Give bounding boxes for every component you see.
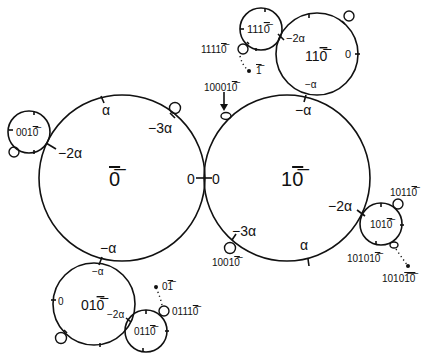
- loop-101010bar: [390, 242, 398, 248]
- tick-1110bar-4: [247, 42, 249, 44]
- angle-zero-010bar: 0: [58, 296, 64, 307]
- loop-100010bar: [221, 113, 231, 120]
- angle-m3alpha-0bar: −3α: [148, 120, 172, 136]
- loop-0010bar: [9, 147, 19, 157]
- loop-0110bar: [159, 306, 169, 316]
- loop-110bar: [344, 11, 354, 21]
- label-110bar: 110̅: [305, 48, 332, 64]
- loop-10110bar: [393, 199, 403, 209]
- loop-0bar-top: [170, 103, 181, 114]
- label-010bar: 010̅: [81, 297, 109, 313]
- point-1010-10: [406, 264, 410, 268]
- point-01bar: [154, 285, 158, 289]
- angle-alpha-10bar: α: [300, 237, 308, 253]
- dotted-101010-to-1010_10: [396, 249, 408, 266]
- tick-m2alpha-0bar: [46, 143, 56, 149]
- point-label-01110bar: 01110̅: [172, 306, 201, 317]
- angle-zero-0bar: 0: [187, 171, 195, 187]
- loop-10010bar: [225, 243, 236, 254]
- label-0110bar: 0110̅: [134, 326, 159, 337]
- label-0bar: 0̅: [109, 168, 126, 190]
- point-bar1: [247, 69, 251, 73]
- arrow-head: [220, 104, 228, 111]
- point-label-1010-10bar: 10101̅0̅: [382, 273, 418, 284]
- point-label-11110bar: 11110̅: [201, 44, 230, 55]
- label-0010bar: 0010̅: [16, 127, 41, 138]
- angle-alpha-0bar: α: [102, 102, 110, 118]
- point-label-10010bar: 10010̅: [212, 257, 243, 268]
- angle-m2alpha-10bar: −2α: [328, 198, 352, 214]
- loop-1110bar: [238, 44, 248, 54]
- angle-m2alpha-0bar: −2α: [58, 145, 82, 161]
- point-label-101010bar: 101010̅: [347, 253, 383, 264]
- angle-zero-110bar: 0: [345, 48, 351, 60]
- angle-malpha-010bar: −α: [92, 266, 104, 277]
- loop-010bar: [56, 333, 67, 344]
- label-10bar: 10̅: [281, 168, 309, 190]
- angle-zero-10bar: 0: [212, 171, 220, 187]
- angle-malpha-110bar: −α: [305, 79, 317, 90]
- circle-diagram: 0̅ 10̅ 110̅ 1110̅ 0010̅ 010̅ 0110̅ 1010̅…: [0, 0, 431, 360]
- angle-m2alpha-110bar: −2α: [286, 32, 306, 44]
- tick-alpha-10bar: [308, 259, 309, 266]
- point-label-100010bar: 100010̅: [204, 82, 240, 93]
- label-1110bar: 1110̅: [247, 23, 274, 35]
- point-label-10110bar: 10110̅: [390, 187, 420, 198]
- circle-0bar: [39, 95, 205, 261]
- angle-malpha-10bar: −α: [295, 102, 311, 118]
- point-label-01bar: 01̅: [162, 281, 176, 292]
- point-label-bar1: 1̅: [256, 65, 265, 76]
- angle-m2alpha-010bar: −2α: [107, 309, 124, 320]
- tick-110bar-2: [342, 21, 345, 24]
- angle-malpha-0bar: −α: [100, 240, 116, 256]
- dotted-1111-to-1: [240, 56, 248, 70]
- angle-m3alpha-10bar: −3α: [232, 223, 256, 239]
- label-1010bar: 1010̅: [370, 219, 395, 230]
